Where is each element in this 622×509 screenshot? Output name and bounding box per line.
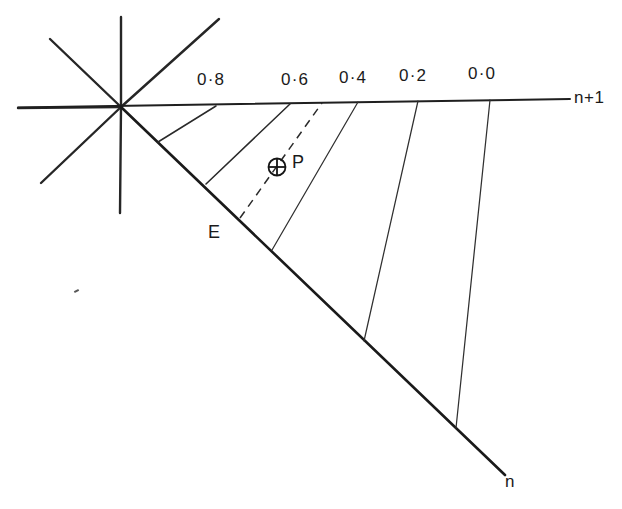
radial-line-0-2 <box>364 101 418 341</box>
ray-northwest-line <box>50 39 121 107</box>
ray-northeast-line <box>121 19 219 107</box>
figure-drawing <box>0 0 622 509</box>
figure-canvas: 0·8 0·6 0·4 0·2 0·0 n+1 n P E <box>0 0 622 509</box>
origin-star-group <box>18 17 219 213</box>
n-axis-label: n <box>505 472 515 492</box>
radial-line-0-0 <box>456 100 490 428</box>
radial-line-inner-1 <box>158 106 216 142</box>
radial-lines-group <box>158 100 490 428</box>
tick-label-0-6: 0·6 <box>281 70 309 90</box>
point-p-label: P <box>292 152 304 173</box>
radial-line-0-4 <box>272 102 358 250</box>
n-plus-one-axis-label: n+1 <box>574 88 604 108</box>
tick-label-0-4: 0·4 <box>339 68 367 88</box>
ray-southwest-line <box>41 107 121 183</box>
n-plus-one-axis-line <box>18 99 570 108</box>
tick-label-0-2: 0·2 <box>399 66 427 86</box>
n-axis-line <box>121 107 505 475</box>
tick-label-0-8: 0·8 <box>197 70 225 90</box>
ray-south-line <box>120 107 121 213</box>
point-e-label: E <box>208 222 220 243</box>
tick-label-0-0: 0·0 <box>468 64 496 84</box>
point-p-marker <box>269 159 286 176</box>
